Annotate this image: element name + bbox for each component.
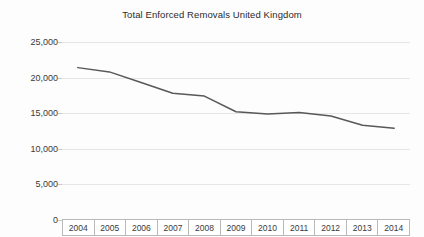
x-axis-cell-2012: 2012	[315, 220, 347, 235]
x-axis-cell-2007: 2007	[158, 220, 190, 235]
y-tick-label-25000: 25,000	[0, 37, 58, 47]
x-axis-year-row: 2004200520062007200820092010201120122013…	[62, 219, 410, 236]
y-tick-label-0: 0	[0, 215, 58, 225]
x-axis-cell-2014: 2014	[378, 220, 410, 235]
x-axis-cell-2013: 2013	[347, 220, 379, 235]
x-axis-cell-2010: 2010	[252, 220, 284, 235]
x-axis-cell-2008: 2008	[189, 220, 221, 235]
y-tick-label-5000: 5,000	[0, 179, 58, 189]
series-polyline	[78, 68, 394, 129]
y-axis: 05,00010,00015,00020,00025,000	[0, 0, 58, 237]
chart-container: Total Enforced Removals United Kingdom 0…	[0, 0, 424, 237]
series-line-removals	[62, 42, 410, 220]
x-axis-cell-2011: 2011	[284, 220, 316, 235]
x-axis-cell-2006: 2006	[126, 220, 158, 235]
y-tick-label-15000: 15,000	[0, 108, 58, 118]
x-axis-cell-2009: 2009	[221, 220, 253, 235]
x-axis-cell-2005: 2005	[95, 220, 127, 235]
x-axis-cell-2004: 2004	[63, 220, 95, 235]
chart-title: Total Enforced Removals United Kingdom	[0, 9, 424, 21]
y-tick-label-20000: 20,000	[0, 73, 58, 83]
y-tick-label-10000: 10,000	[0, 144, 58, 154]
plot-area	[62, 42, 410, 220]
